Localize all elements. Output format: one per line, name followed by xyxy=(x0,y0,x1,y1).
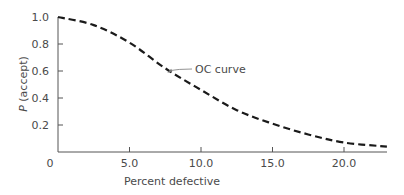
x-tick-label: 20.0 xyxy=(332,157,357,170)
x-axis-title: Percent defective xyxy=(124,175,220,188)
series xyxy=(58,17,387,147)
annotation-leader-line xyxy=(169,69,192,71)
y-axis-title-rest: (accept) xyxy=(17,56,30,105)
annotation-label: OC curve xyxy=(195,63,246,76)
annotations: OC curve xyxy=(167,63,246,76)
oc-curve-chart: 0.20.40.60.81.005.010.015.020.0 OC curve… xyxy=(0,0,404,195)
ticks: 0.20.40.60.81.005.010.015.020.0 xyxy=(32,11,357,170)
y-tick-label: 0.4 xyxy=(32,92,50,105)
axes xyxy=(58,17,387,152)
x-tick-label: 15.0 xyxy=(260,157,285,170)
y-tick-label: 0.6 xyxy=(32,65,50,78)
y-axis-title: P (accept) xyxy=(17,56,30,112)
y-tick-label: 0.2 xyxy=(32,119,50,132)
x-tick-label: 10.0 xyxy=(189,157,214,170)
y-tick-label: 0.8 xyxy=(32,38,50,51)
oc-curve-line xyxy=(58,17,387,147)
x-tick-label: 5.0 xyxy=(121,157,139,170)
y-tick-label: 1.0 xyxy=(32,11,50,24)
x-tick-label: 0 xyxy=(47,157,54,170)
